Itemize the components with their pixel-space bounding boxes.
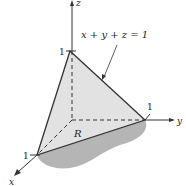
pointer-arrow-icon bbox=[102, 74, 106, 80]
y-tick-label: 1 bbox=[147, 102, 153, 112]
z-tick-label: 1 bbox=[59, 47, 65, 57]
diagram-canvas: z y x 1 1 1 x + y + z = 1 R bbox=[0, 0, 186, 186]
tetrahedron-diagram: z y x 1 1 1 x + y + z = 1 R bbox=[0, 0, 186, 186]
x-axis-label: x bbox=[9, 177, 14, 186]
y-tick bbox=[145, 114, 150, 120]
region-label: R bbox=[73, 128, 82, 139]
y-axis-arrow-icon bbox=[169, 118, 175, 122]
equation-pointer bbox=[104, 45, 117, 77]
y-axis-label: y bbox=[176, 116, 183, 126]
x-tick-label: 1 bbox=[23, 151, 29, 161]
z-axis-arrow-icon bbox=[70, 0, 74, 6]
z-axis-label: z bbox=[75, 0, 81, 8]
plane-equation: x + y + z = 1 bbox=[81, 29, 148, 40]
